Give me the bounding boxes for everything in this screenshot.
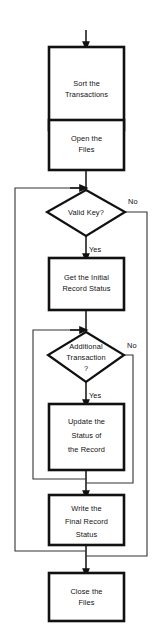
node-open-files-line-2: Files: [78, 145, 94, 154]
node-get-initial-record-status-line-2: Record Status: [62, 284, 110, 293]
node-update-record-status-line-1: Update the: [68, 417, 105, 426]
branch-label-valid-key-no: No: [128, 197, 138, 206]
branch-label-valid-key-yes: Yes: [89, 245, 102, 254]
node-valid-key-line-1: Valid Key?: [68, 208, 104, 217]
node-write-final-record-status[interactable]: Write the Final Record Status: [49, 495, 124, 545]
node-sort-transactions[interactable]: Sort the Transactions: [49, 47, 124, 130]
node-update-record-status[interactable]: Update the Status of the Record: [49, 404, 124, 470]
node-write-final-record-status-line-2: Final Record: [65, 517, 108, 526]
node-write-final-record-status-line-1: Write the: [71, 504, 101, 513]
node-close-files-line-1: Close the: [70, 587, 102, 596]
node-additional-transaction-line-2: Transaction: [66, 353, 105, 362]
flowchart-svg: Sort the Transactions Open the Files Get…: [0, 0, 156, 636]
branch-label-additional-transaction-yes: Yes: [89, 391, 102, 400]
flowchart-canvas: Sort the Transactions Open the Files Get…: [0, 0, 156, 636]
node-sort-transactions-line-2: Transactions: [65, 90, 108, 99]
node-update-record-status-line-2: Status of: [71, 431, 102, 440]
node-update-record-status-line-3: the Record: [68, 445, 105, 454]
node-additional-transaction-line-3: ?: [84, 364, 88, 373]
node-sort-transactions-line-1: Sort the: [73, 79, 100, 88]
node-close-files-line-2: Files: [78, 598, 94, 607]
node-valid-key[interactable]: Valid Key?: [47, 190, 125, 236]
node-get-initial-record-status[interactable]: Get the Initial Record Status: [49, 258, 124, 310]
node-additional-transaction[interactable]: Additional Transaction ?: [48, 332, 124, 382]
node-write-final-record-status-line-3: Status: [76, 530, 98, 539]
node-close-files[interactable]: Close the Files: [49, 573, 124, 621]
node-get-initial-record-status-line-1: Get the Initial: [64, 273, 109, 282]
node-additional-transaction-line-1: Additional: [69, 342, 103, 351]
node-open-files[interactable]: Open the Files: [49, 120, 124, 170]
branch-label-additional-transaction-no: No: [127, 341, 137, 350]
node-open-files-line-1: Open the: [71, 134, 102, 143]
